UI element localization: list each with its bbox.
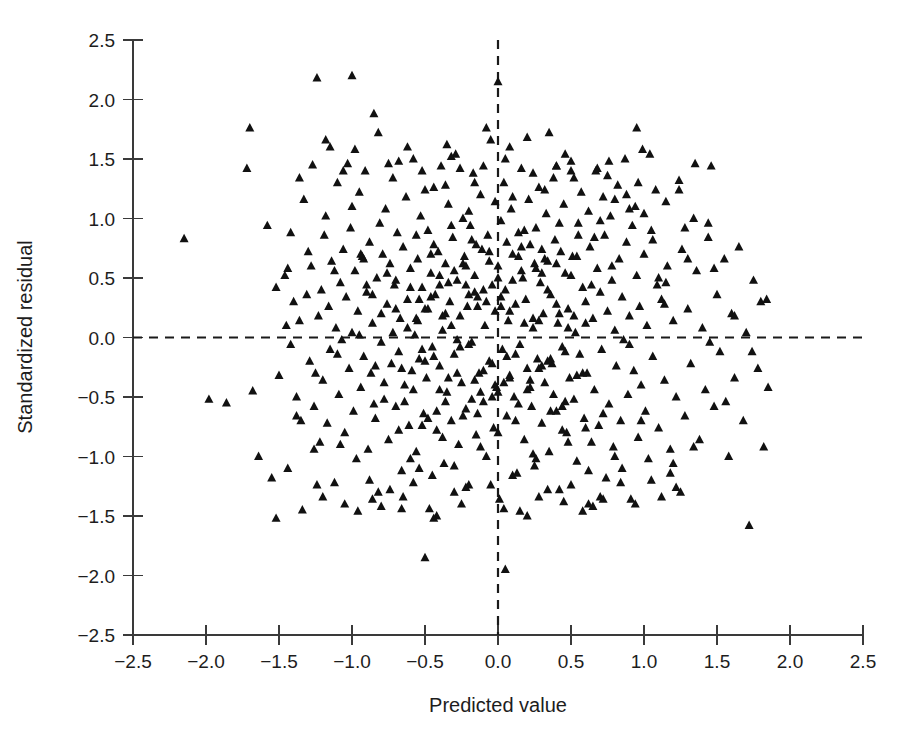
data-point-marker — [334, 390, 343, 398]
data-point-marker — [745, 521, 754, 529]
y-tick-label: −1.0 — [77, 447, 115, 468]
data-point-marker — [669, 316, 678, 324]
data-point-marker — [333, 178, 342, 186]
data-point-marker — [421, 553, 430, 561]
data-point-marker — [444, 373, 453, 381]
data-point-marker — [450, 266, 459, 274]
data-point-marker — [616, 478, 625, 486]
data-point-marker — [680, 411, 689, 419]
data-point-marker — [331, 323, 340, 331]
data-point-marker — [473, 409, 482, 417]
data-point-marker — [432, 406, 441, 414]
data-point-marker — [704, 218, 713, 226]
data-point-marker — [444, 278, 453, 286]
data-point-marker — [364, 444, 373, 452]
y-tick-label: 2.0 — [89, 90, 115, 111]
data-point-marker — [283, 463, 292, 471]
data-point-marker — [453, 335, 462, 343]
data-point-marker — [600, 230, 609, 238]
data-point-marker — [311, 368, 320, 376]
data-point-marker — [610, 194, 619, 202]
data-point-marker — [304, 247, 313, 255]
data-points-layer — [180, 71, 773, 573]
data-point-marker — [378, 249, 387, 257]
data-point-marker — [632, 123, 641, 131]
data-point-marker — [299, 194, 308, 202]
data-point-marker — [330, 478, 339, 486]
data-point-marker — [245, 123, 254, 131]
data-point-marker — [710, 264, 719, 272]
data-point-marker — [320, 230, 329, 238]
data-point-marker — [415, 463, 424, 471]
data-point-marker — [432, 425, 441, 433]
data-point-marker — [520, 318, 529, 326]
data-point-marker — [485, 247, 494, 255]
data-point-marker — [567, 166, 576, 174]
data-point-marker — [545, 128, 554, 136]
data-point-marker — [375, 218, 384, 226]
data-point-marker — [660, 375, 669, 383]
data-point-marker — [333, 349, 342, 357]
data-point-marker — [534, 183, 543, 191]
data-point-marker — [501, 565, 510, 573]
data-point-marker — [511, 349, 520, 357]
data-point-marker — [295, 316, 304, 324]
data-point-marker — [286, 228, 295, 236]
data-point-marker — [622, 237, 631, 245]
data-point-marker — [483, 230, 492, 238]
data-point-marker — [561, 268, 570, 276]
data-point-marker — [453, 275, 462, 283]
data-point-marker — [558, 425, 567, 433]
data-point-marker — [517, 266, 526, 274]
data-point-marker — [542, 209, 551, 217]
data-point-marker — [588, 313, 597, 321]
data-point-marker — [412, 230, 421, 238]
data-point-marker — [348, 328, 357, 336]
data-point-marker — [315, 437, 324, 445]
data-point-marker — [625, 311, 634, 319]
data-point-marker — [305, 356, 314, 364]
data-point-marker — [479, 285, 488, 293]
data-point-marker — [644, 454, 653, 462]
data-point-marker — [501, 154, 510, 162]
data-point-marker — [615, 254, 624, 262]
data-point-marker — [505, 142, 514, 150]
data-point-marker — [590, 233, 599, 241]
data-point-marker — [336, 278, 345, 286]
x-tick-label: −2.5 — [114, 651, 152, 672]
data-point-marker — [447, 416, 456, 424]
data-point-marker — [339, 244, 348, 252]
data-point-marker — [520, 225, 529, 233]
data-point-marker — [397, 466, 406, 474]
data-point-marker — [508, 249, 517, 257]
data-point-marker — [422, 373, 431, 381]
data-point-marker — [610, 452, 619, 460]
data-point-marker — [619, 335, 628, 343]
data-point-marker — [603, 171, 612, 179]
data-point-marker — [552, 299, 561, 307]
data-point-marker — [669, 459, 678, 467]
data-point-marker — [593, 264, 602, 272]
data-point-marker — [391, 304, 400, 312]
data-point-marker — [707, 161, 716, 169]
data-point-marker — [403, 142, 412, 150]
data-point-marker — [686, 359, 695, 367]
data-point-marker — [372, 273, 381, 281]
data-point-marker — [713, 290, 722, 298]
data-point-marker — [485, 256, 494, 264]
data-point-marker — [531, 223, 540, 231]
data-point-marker — [657, 492, 666, 500]
data-point-marker — [632, 271, 641, 279]
data-point-marker — [441, 180, 450, 188]
data-point-marker — [476, 190, 485, 198]
data-point-marker — [721, 397, 730, 405]
data-point-marker — [533, 354, 542, 362]
data-point-marker — [623, 390, 632, 398]
data-point-marker — [753, 363, 762, 371]
x-tick-label: 2.0 — [777, 651, 803, 672]
data-point-marker — [683, 304, 692, 312]
data-point-marker — [321, 135, 330, 143]
data-point-marker — [613, 180, 622, 188]
data-point-marker — [314, 311, 323, 319]
data-point-marker — [545, 447, 554, 455]
